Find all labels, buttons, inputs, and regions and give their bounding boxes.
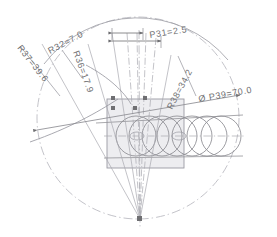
label-p31: P31=2.5 (149, 24, 188, 40)
technical-drawing-canvas: R32=7.0 R36=17.9 R37=39.6 R38=34.2 P31=2… (0, 0, 277, 237)
apex-point (137, 216, 142, 221)
leader-lines (20, 46, 196, 96)
cad-drawing-svg: R32=7.0 R36=17.9 R37=39.6 R38=34.2 P31=2… (0, 0, 277, 237)
label-p39: Ø P39=70.0 (198, 85, 253, 104)
